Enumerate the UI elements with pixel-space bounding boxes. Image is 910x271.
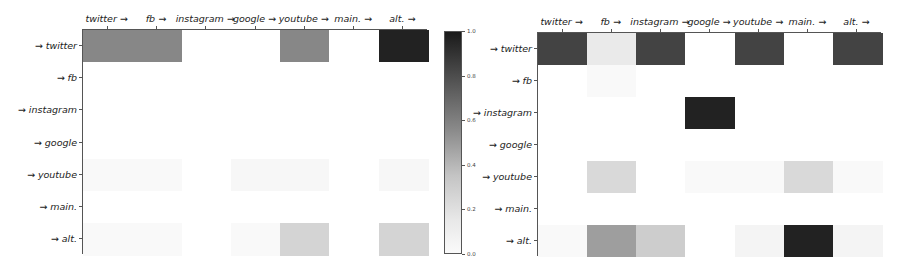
heatmap-cell bbox=[231, 191, 281, 224]
heatmap-cell bbox=[587, 161, 637, 193]
colorbar-tick-label: 0.8 bbox=[467, 73, 476, 79]
heatmap-cell bbox=[83, 191, 133, 224]
heatmap-cell bbox=[636, 129, 686, 161]
y-tick-mark bbox=[534, 144, 537, 145]
x-tick-mark bbox=[660, 29, 661, 32]
x-tick-label: fb → bbox=[146, 13, 166, 24]
heatmap-cell bbox=[735, 65, 785, 97]
x-tick-mark bbox=[107, 26, 108, 29]
heatmap-cell bbox=[231, 30, 281, 63]
heatmap-cell bbox=[329, 94, 379, 127]
heatmap-cell bbox=[636, 225, 686, 257]
heatmap-cell bbox=[379, 94, 429, 127]
colorbar bbox=[444, 31, 462, 254]
colorbar-tick-mark bbox=[462, 120, 465, 121]
y-tick-mark bbox=[534, 208, 537, 209]
heatmap-cell bbox=[833, 97, 883, 129]
y-tick-label: → instagram bbox=[473, 107, 532, 118]
heatmap-cell bbox=[587, 129, 637, 161]
y-tick-mark bbox=[79, 206, 82, 207]
x-tick-label: google → bbox=[687, 16, 730, 27]
heatmap-cell bbox=[329, 126, 379, 159]
y-tick-label: → twitter bbox=[490, 43, 532, 54]
heatmap-cell bbox=[685, 65, 735, 97]
heatmap-cell bbox=[587, 65, 637, 97]
right-heatmap bbox=[537, 32, 881, 256]
heatmap-cell bbox=[379, 191, 429, 224]
heatmap-cell bbox=[833, 129, 883, 161]
heatmap-cell bbox=[280, 191, 330, 224]
colorbar-tick-mark bbox=[462, 31, 465, 32]
y-tick-mark bbox=[534, 176, 537, 177]
heatmap-cell bbox=[735, 129, 785, 161]
y-tick-label: → google bbox=[489, 139, 532, 150]
x-tick-label: twitter → bbox=[540, 16, 582, 27]
y-tick-mark bbox=[79, 109, 82, 110]
heatmap-cell bbox=[784, 225, 834, 257]
heatmap-cell bbox=[587, 193, 637, 225]
heatmap-cell bbox=[538, 33, 588, 65]
x-tick-label: twitter → bbox=[85, 13, 127, 24]
x-tick-mark bbox=[402, 26, 403, 29]
heatmap-cell bbox=[329, 223, 379, 256]
colorbar-tick-label: 0.6 bbox=[467, 117, 476, 123]
heatmap-cell bbox=[132, 94, 182, 127]
colorbar-tick-mark bbox=[462, 209, 465, 210]
y-tick-mark bbox=[534, 48, 537, 49]
heatmap-cell bbox=[83, 159, 133, 192]
heatmap-cell bbox=[587, 97, 637, 129]
heatmap-cell bbox=[636, 33, 686, 65]
x-tick-mark bbox=[156, 26, 157, 29]
heatmap-cell bbox=[280, 159, 330, 192]
heatmap-cell bbox=[182, 223, 232, 256]
heatmap-cell bbox=[636, 65, 686, 97]
heatmap-cell bbox=[329, 159, 379, 192]
x-tick-mark bbox=[353, 26, 354, 29]
x-tick-label: fb → bbox=[601, 16, 621, 27]
heatmap-cell bbox=[735, 225, 785, 257]
y-tick-label: → google bbox=[34, 136, 77, 147]
heatmap-cell bbox=[636, 161, 686, 193]
y-tick-label: → youtube bbox=[27, 168, 77, 179]
heatmap-cell bbox=[182, 159, 232, 192]
heatmap-cell bbox=[685, 225, 735, 257]
y-tick-mark bbox=[79, 142, 82, 143]
colorbar-tick-mark bbox=[462, 165, 465, 166]
colorbar-tick-label: 0.2 bbox=[467, 206, 476, 212]
heatmap-cell bbox=[538, 193, 588, 225]
heatmap-cell bbox=[784, 129, 834, 161]
x-tick-label: main. → bbox=[788, 16, 826, 27]
heatmap-cell bbox=[83, 62, 133, 95]
heatmap-cell bbox=[685, 193, 735, 225]
y-tick-label: → instagram bbox=[18, 104, 77, 115]
y-tick-mark bbox=[79, 238, 82, 239]
x-tick-mark bbox=[611, 29, 612, 32]
heatmap-cell bbox=[379, 126, 429, 159]
heatmap-cell bbox=[379, 30, 429, 63]
colorbar-tick-label: 1.0 bbox=[467, 28, 476, 34]
heatmap-cell bbox=[784, 33, 834, 65]
x-tick-mark bbox=[709, 29, 710, 32]
heatmap-cell bbox=[587, 33, 637, 65]
colorbar-tick-mark bbox=[462, 254, 465, 255]
left-heatmap bbox=[82, 29, 427, 254]
heatmap-cell bbox=[280, 223, 330, 256]
x-tick-mark bbox=[255, 26, 256, 29]
x-tick-mark bbox=[856, 29, 857, 32]
heatmap-cell bbox=[833, 161, 883, 193]
heatmap-cell bbox=[784, 161, 834, 193]
y-tick-mark bbox=[79, 174, 82, 175]
heatmap-cell bbox=[132, 159, 182, 192]
y-tick-mark bbox=[534, 240, 537, 241]
heatmap-cell bbox=[538, 161, 588, 193]
heatmap-cell bbox=[735, 97, 785, 129]
heatmap-cell bbox=[833, 225, 883, 257]
heatmap-cell bbox=[784, 65, 834, 97]
heatmap-cell bbox=[587, 225, 637, 257]
x-tick-label: alt. → bbox=[389, 13, 415, 24]
y-tick-label: → fb bbox=[57, 72, 77, 83]
heatmap-cell bbox=[280, 30, 330, 63]
y-tick-label: → twitter bbox=[35, 40, 77, 51]
heatmap-cell bbox=[735, 33, 785, 65]
heatmap-cell bbox=[329, 191, 379, 224]
